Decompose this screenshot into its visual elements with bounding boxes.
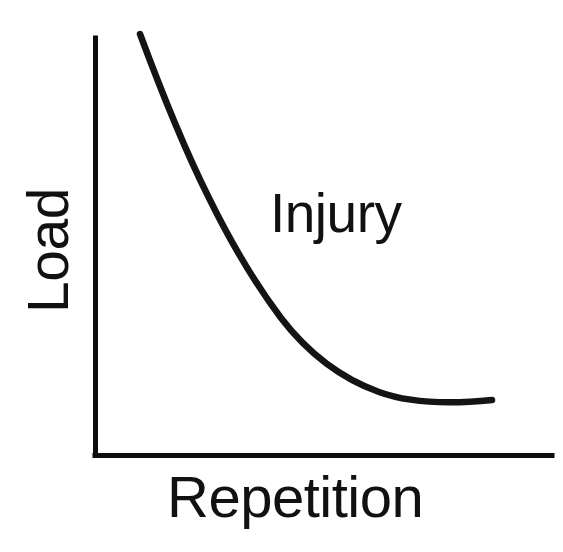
injury-annotation-label: Injury [270, 186, 402, 241]
injury-curve-figure: Load Injury Repetition [0, 0, 563, 552]
x-axis-label: Repetition [167, 468, 423, 526]
y-axis-label: Load [20, 186, 77, 316]
